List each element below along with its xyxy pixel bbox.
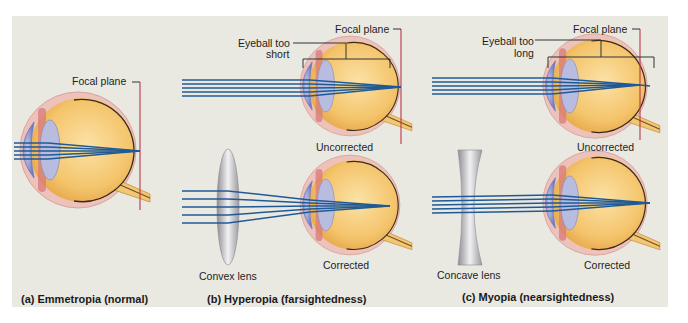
caption-b-hyperopia: (b) Hyperopia (farsightedness) (207, 294, 367, 305)
panel-a-emmetropia (14, 82, 150, 210)
eyeball-too-short-label-line2: short (266, 49, 289, 60)
eyeball-too-long-label-line1: Eyeball too (482, 36, 534, 47)
uncorrected-label-b: Uncorrected (316, 142, 373, 153)
panel-b-hyperopia (182, 29, 412, 265)
caption-c-myopia: (c) Myopia (nearsightedness) (462, 292, 614, 303)
corrected-label-b: Corrected (323, 260, 369, 271)
concave-lens-label: Concave lens (437, 270, 501, 281)
caption-a-emmetropia: (a) Emmetropia (normal) (21, 294, 148, 305)
eye-diagram-illustration (0, 0, 688, 323)
focal-plane-label-b-uncorrected: Focal plane (335, 24, 389, 35)
corrected-label-c: Corrected (584, 260, 630, 271)
eyeball-too-long-label-line2: long (514, 48, 534, 59)
focal-plane-label-c-uncorrected: Focal plane (573, 24, 627, 35)
eyeball-too-short-label-line1: Eyeball too (238, 38, 290, 49)
convex-lens-label: Convex lens (199, 271, 257, 282)
focal-plane-label-a: Focal plane (72, 76, 126, 87)
uncorrected-label-c: Uncorrected (577, 142, 634, 153)
